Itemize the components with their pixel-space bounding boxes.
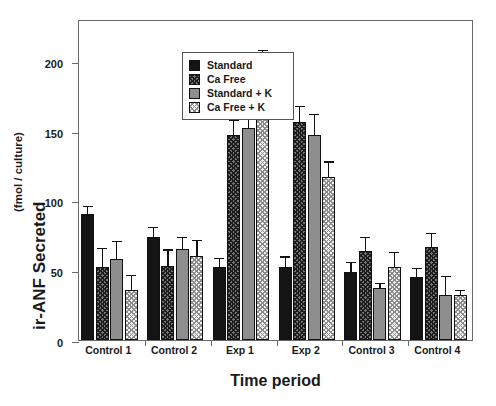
error-bar-cap [346, 262, 356, 263]
bar [322, 177, 335, 340]
error-bar-cap [280, 256, 290, 257]
error-bar [299, 107, 300, 122]
error-bar [431, 234, 432, 247]
error-bar [460, 291, 461, 295]
y-axis-tick-label: 100 [45, 197, 63, 209]
y-axis-tick: 200 [72, 63, 79, 64]
error-bar-cap [177, 237, 187, 238]
legend-item: Standard [189, 58, 286, 72]
legend-item: Standard + K [189, 86, 286, 100]
bar-group [344, 21, 401, 340]
error-bar [153, 228, 154, 236]
error-bar [167, 251, 168, 266]
bar [96, 267, 109, 340]
x-axis-title: Time period [78, 372, 473, 390]
bar [256, 86, 269, 340]
bar [176, 249, 189, 340]
error-bar [219, 259, 220, 267]
error-bar-cap [360, 237, 370, 238]
error-bar [416, 269, 417, 277]
x-axis-tick-label: Exp 2 [292, 344, 320, 356]
plot-area: 050100150200 Standard Ca Free Standard +… [78, 20, 473, 341]
error-bar [445, 277, 446, 295]
legend-swatch-standard-k [189, 88, 200, 99]
error-bar-cap [324, 161, 334, 162]
bar [373, 288, 386, 340]
bar [293, 122, 306, 340]
bar [190, 256, 203, 340]
x-axis-tick-labels: Control 1Control 2Exp 1Exp 2Control 3Con… [78, 344, 473, 364]
error-bar-cap [309, 114, 319, 115]
bar [213, 267, 226, 340]
bar [425, 247, 438, 341]
x-axis-tick-label: Control 1 [85, 344, 131, 356]
error-bar-cap [258, 50, 268, 51]
bar-chart-figure: ir-ANF Secreted (fmol / culture) 0501001… [0, 0, 496, 406]
bar-group [81, 21, 138, 340]
error-bar-cap [375, 283, 385, 284]
legend-swatch-ca-free [189, 74, 200, 85]
y-axis-tick: 0 [72, 342, 79, 343]
y-axis-unit-label: (fmol / culture) [12, 132, 24, 212]
error-bar-cap [455, 290, 465, 291]
error-bar-cap [192, 240, 202, 241]
bar [242, 128, 255, 340]
bar-group [410, 21, 467, 340]
error-bar [314, 115, 315, 135]
error-bar [196, 241, 197, 256]
legend-label-ca-free-k: Ca Free + K [207, 101, 265, 113]
y-axis-tick: 100 [72, 202, 79, 203]
error-bar [102, 249, 103, 267]
bar [81, 214, 94, 340]
error-bar-cap [426, 233, 436, 234]
error-bar-cap [389, 252, 399, 253]
error-bar-cap [295, 106, 305, 107]
bar [125, 290, 138, 340]
legend-label-standard-k: Standard + K [207, 87, 272, 99]
error-bar [233, 121, 234, 135]
legend-swatch-standard [189, 60, 200, 71]
legend-item: Ca Free + K [189, 100, 286, 114]
legend-label-ca-free: Ca Free [207, 73, 246, 85]
error-bar-cap [83, 206, 93, 207]
bar [410, 277, 423, 340]
x-axis-tick-label: Control 2 [151, 344, 197, 356]
error-bar-cap [441, 276, 451, 277]
error-bar [285, 258, 286, 268]
error-bar [365, 238, 366, 251]
error-bar [131, 276, 132, 290]
error-bar-cap [112, 241, 122, 242]
error-bar [328, 163, 329, 177]
y-axis-tick-label: 0 [57, 337, 63, 349]
x-axis-tick-label: Exp 1 [226, 344, 254, 356]
error-bar [116, 242, 117, 259]
error-bar-cap [412, 268, 422, 269]
error-bar-cap [97, 248, 107, 249]
error-bar [350, 263, 351, 271]
error-bar [87, 207, 88, 214]
bar [439, 295, 452, 340]
error-bar-cap [163, 249, 173, 250]
bar [279, 267, 292, 340]
bar [147, 237, 160, 340]
x-axis-tick-label: Control 3 [349, 344, 395, 356]
y-axis-tick-label: 50 [51, 267, 63, 279]
bar [388, 267, 401, 340]
legend-item: Ca Free [189, 72, 286, 86]
y-axis-tick-label: 150 [45, 128, 63, 140]
error-bar [182, 238, 183, 249]
bar [227, 135, 240, 340]
error-bar [379, 284, 380, 288]
bar [161, 266, 174, 340]
y-axis-tick: 150 [72, 133, 79, 134]
y-axis-tick-label: 200 [45, 58, 63, 70]
bar [308, 135, 321, 340]
error-bar-cap [214, 258, 224, 259]
bar [359, 251, 372, 340]
legend-swatch-ca-free-k [189, 102, 200, 113]
y-axis-tick: 50 [72, 272, 79, 273]
y-axis-title: ir-ANF Secreted [30, 202, 50, 330]
bar [454, 295, 467, 340]
error-bar-cap [148, 227, 158, 228]
error-bar [394, 253, 395, 267]
